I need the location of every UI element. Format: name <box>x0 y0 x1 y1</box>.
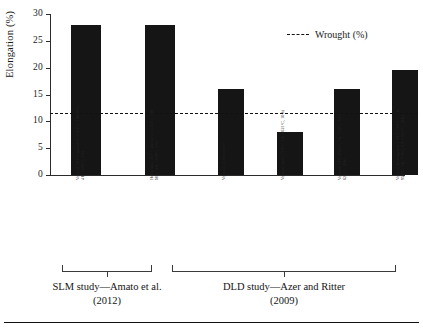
y-axis-title-text: Elongation (%) <box>4 0 15 78</box>
group-caption-slm-line2: (2012) <box>27 294 187 308</box>
y-tick-label-20: 20 <box>33 63 43 73</box>
category-label-3: Vertical, aged (718°C, 6 h + 621°C, 10 h… <box>280 104 285 180</box>
group-caption-dld-line2: (2009) <box>194 294 374 308</box>
category-label-1: Horizontal, HIP + annealed (1163°C, 100 … <box>149 104 160 180</box>
x-axis-line <box>50 175 405 176</box>
category-label-0: Vertical, HIP + annealed (1163°C, 100 MP… <box>75 104 86 180</box>
category-label-4: Vertical, STA (954°C, 1 h; 718°C, 6 h + … <box>337 104 348 180</box>
category-label-2: Vertical, as fabricated <box>221 104 226 180</box>
y-tick-label-25: 25 <box>33 36 43 46</box>
y-tick-label-10: 10 <box>33 117 43 127</box>
group-caption-dld: DLD study—Azer and Ritter (2009) <box>194 280 374 308</box>
bottom-divider <box>4 322 419 323</box>
y-tick-label-15: 15 <box>33 90 43 100</box>
y-tick-label-30: 30 <box>33 9 43 19</box>
group-caption-slm: SLM study—Amato et al. (2012) <box>27 280 187 308</box>
y-tick-label-0: 0 <box>38 170 43 180</box>
figure-container: Elongation (%) Wrought (%) 0 5 10 15 20 … <box>0 0 423 334</box>
y-axis-title: Elongation (%) <box>4 50 18 61</box>
plot-area: 0 5 10 15 20 25 30 <box>50 14 405 175</box>
category-label-5: Vertical, homogenize + STA (1093°C, 1 h;… <box>395 104 406 180</box>
group-bracket-slm <box>62 265 152 272</box>
y-tick-label-5: 5 <box>38 143 43 153</box>
group-bracket-stem-dld <box>284 272 285 277</box>
group-bracket-stem-slm <box>107 272 108 277</box>
wrought-reference-line <box>50 113 418 114</box>
group-caption-slm-line1: SLM study—Amato et al. <box>27 280 187 294</box>
y-axis-line <box>50 14 51 175</box>
group-bracket-dld <box>172 265 396 272</box>
group-caption-dld-line1: DLD study—Azer and Ritter <box>194 280 374 294</box>
